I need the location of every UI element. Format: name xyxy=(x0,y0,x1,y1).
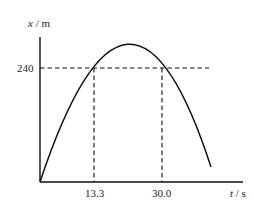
position-curve xyxy=(40,44,211,182)
x-tick-30-0: 30.0 xyxy=(152,187,172,199)
x-tick-13-3: 13.3 xyxy=(85,187,105,199)
y-axis-label: x / m xyxy=(27,17,50,29)
y-tick-240: 240 xyxy=(17,62,34,74)
x-axis-label: t / s xyxy=(230,187,246,199)
chart-canvas: x / m 240 13.3 30.0 t / s xyxy=(0,0,253,206)
